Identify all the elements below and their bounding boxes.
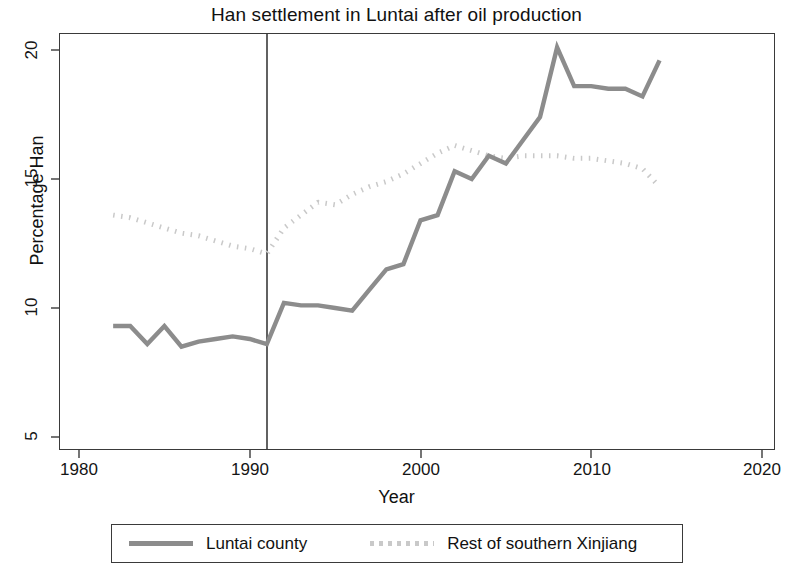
x-axis-title: Year (0, 487, 793, 508)
legend-label-luntai: Luntai county (206, 534, 307, 554)
x-tick-label-2010: 2010 (552, 460, 632, 480)
legend-entry-rest: Rest of southern Xinjiang (370, 525, 637, 562)
y-axis-ticks (51, 50, 59, 437)
y-tick-label-10: 10 (22, 287, 42, 327)
chart-legend: Luntai county Rest of southern Xinjiang (111, 524, 683, 563)
legend-label-rest: Rest of southern Xinjiang (447, 534, 637, 554)
x-axis-ticks (79, 450, 762, 458)
plot-area (59, 33, 775, 450)
y-tick-label-20: 20 (22, 30, 42, 70)
legend-entry-luntai: Luntai county (129, 525, 307, 562)
y-axis-title: Percentage Han (27, 101, 48, 301)
legend-swatch-dotted-icon (370, 541, 434, 546)
legend-swatch-solid-icon (129, 541, 193, 546)
chart-title: Han settlement in Luntai after oil produ… (0, 4, 793, 26)
y-tick-label-5: 5 (22, 416, 42, 456)
x-tick-label-2020: 2020 (722, 460, 793, 480)
x-tick-label-2000: 2000 (381, 460, 461, 480)
x-tick-label-1980: 1980 (39, 460, 119, 480)
y-tick-label-15: 15 (22, 158, 42, 198)
chart-figure: Han settlement in Luntai after oil produ… (0, 0, 793, 573)
x-tick-label-1990: 1990 (210, 460, 290, 480)
